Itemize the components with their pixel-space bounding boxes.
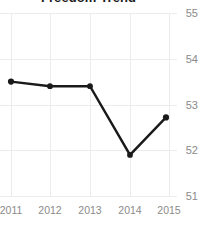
data-point-2014 xyxy=(127,152,133,158)
x-axis-tick-2015: 2015 xyxy=(152,205,186,216)
x-axis-tick-2013: 2013 xyxy=(73,205,107,216)
x-axis-tick-2012: 2012 xyxy=(33,205,67,216)
data-point-2013 xyxy=(87,83,93,89)
data-point-2012 xyxy=(47,83,53,89)
chart-screenshot: Freedom Trend xyxy=(0,0,200,225)
data-point-2011 xyxy=(8,79,14,85)
y-axis-tick-51: 51 xyxy=(172,191,198,202)
x-axis-tick-2011: 2011 xyxy=(0,205,28,216)
y-axis-tick-54: 54 xyxy=(172,54,198,65)
y-axis-tick-53: 53 xyxy=(172,100,198,111)
x-axis-tick-2014: 2014 xyxy=(113,205,147,216)
plot-area xyxy=(0,0,177,199)
data-line-series-1 xyxy=(11,82,166,155)
data-point-markers xyxy=(8,79,169,158)
data-point-2015 xyxy=(163,114,169,120)
y-axis-tick-52: 52 xyxy=(172,145,198,156)
line-chart-svg xyxy=(0,0,177,199)
y-axis-tick-55: 55 xyxy=(172,8,198,19)
horizontal-gridlines xyxy=(0,14,177,197)
